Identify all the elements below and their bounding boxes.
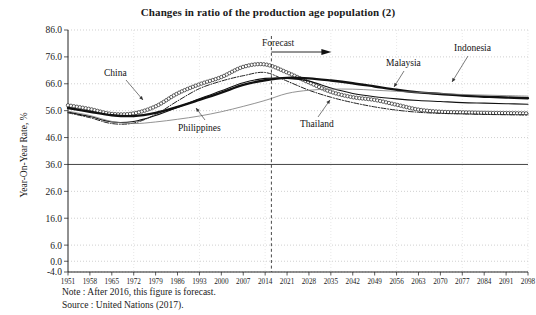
y-axis-tick-label: 26.0 [45, 187, 62, 197]
x-axis-tick-label: 2098 [521, 278, 536, 286]
x-axis-tick-label: 1993 [192, 278, 207, 286]
x-axis-tick-label: 2049 [367, 278, 382, 286]
y-axis-tick-label: 36.0 [45, 160, 62, 170]
x-axis-tick-label: 2014 [258, 278, 273, 286]
series-label-china: China [104, 68, 127, 78]
x-axis-tick-label: 1972 [127, 278, 142, 286]
x-axis-tick-label: 2070 [433, 278, 448, 286]
series-label-thailand: Thailand [300, 119, 334, 129]
x-axis-tick-label: 1979 [148, 278, 163, 286]
y-axis-tick-label: 56.0 [45, 106, 62, 116]
leader-thailand-arrowhead [326, 100, 330, 104]
forecast-label: Forecast [262, 38, 294, 48]
x-axis-tick-label: 1951 [61, 278, 76, 286]
forecast-arrow-head [321, 49, 331, 55]
x-axis-tick-label: 2007 [236, 278, 251, 286]
x-axis-tick-label: 2063 [411, 278, 426, 286]
series-label-malaysia: Malaysia [386, 58, 421, 68]
x-axis-tick-label: 2042 [346, 278, 361, 286]
series-label-philippines: Philippines [178, 123, 221, 133]
x-axis-tick-label: 2028 [302, 278, 317, 286]
note-text: Note : After 2016, this figure is foreca… [62, 286, 216, 299]
x-axis-tick-label: 1958 [83, 278, 98, 286]
x-axis-tick-label: 2000 [214, 278, 229, 286]
y-axis-tick-label: 86.0 [45, 25, 62, 35]
y-axis-tick-label: -4.0 [47, 267, 62, 277]
y-axis-tick-label: 0.0 [50, 257, 62, 267]
x-axis-tick-label: 2021 [280, 278, 295, 286]
y-axis-tick-label: 46.0 [45, 133, 62, 143]
y-axis-tick-label: 66.0 [45, 79, 62, 89]
chart-figure: Changes in ratio of the production age p… [0, 0, 536, 315]
x-axis-tick-label: 2056 [389, 278, 404, 286]
x-axis-tick-label: 1965 [105, 278, 120, 286]
x-axis-tick-label: 2077 [455, 278, 470, 286]
x-axis-tick-label: 1986 [170, 278, 185, 286]
leader-indonesia-arrowhead [452, 78, 456, 82]
series-label-indonesia: Indonesia [454, 43, 491, 53]
x-axis-tick-label: 2035 [324, 278, 339, 286]
y-axis-tick-label: 16.0 [45, 214, 62, 224]
footnotes: Note : After 2016, this figure is foreca… [62, 286, 216, 312]
series-philippines [68, 89, 528, 124]
y-axis-tick-label: 6.0 [50, 241, 62, 251]
source-text: Source : United Nations (2017). [62, 299, 216, 312]
leader-china [126, 80, 143, 100]
x-axis-tick-label: 2084 [477, 278, 492, 286]
x-axis-tick-label: 2091 [499, 278, 514, 286]
leader-indonesia [452, 56, 468, 82]
series-line-china [68, 64, 528, 114]
series-line-philippines [68, 89, 528, 124]
y-axis-tick-label: 76.0 [45, 52, 62, 62]
